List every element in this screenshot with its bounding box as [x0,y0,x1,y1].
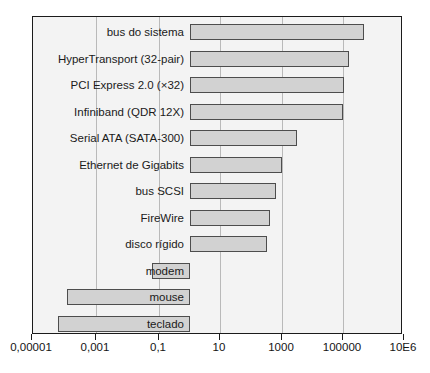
axis-tick-label: 100000 [323,341,361,353]
category-label: bus SCSI [33,183,188,199]
axis-tick-label: 0,1 [150,341,166,353]
category-label: HyperTransport (32-pair) [33,51,188,67]
category-label: Serial ATA (SATA-300) [33,130,188,146]
axis-tick [219,334,220,340]
bar-row: bus SCSI [33,183,401,199]
bar [190,157,282,173]
axis-tick-label: 10 [213,341,226,353]
bar [190,77,344,93]
bar-row: Ethernet de Gigabits [33,157,401,173]
axis-tick [342,334,343,340]
axis-tick [95,334,96,340]
bar [190,183,276,199]
bar [190,210,270,226]
category-label: Ethernet de Gigabits [33,157,188,173]
bar-row: mouse [33,289,401,305]
category-label: modem [33,263,188,279]
bar [190,104,343,120]
bar-row: bus do sistema [33,24,401,40]
category-label: bus do sistema [33,24,188,40]
bar [190,236,267,252]
bar-row: Serial ATA (SATA-300) [33,130,401,146]
bar [190,24,364,40]
bar [190,51,349,67]
category-label: mouse [33,289,188,305]
axis-tick [158,334,159,340]
bar-row: HyperTransport (32-pair) [33,51,401,67]
category-label: PCI Express 2.0 (×32) [33,77,188,93]
bar-row: FireWire [33,210,401,226]
axis-tick-label: 1000 [268,341,294,353]
category-label: disco rígido [33,236,188,252]
axis-tick-label: 0,001 [81,341,110,353]
plot-area: bus do sistemaHyperTransport (32-pair)PC… [33,17,401,333]
category-label: teclado [33,316,188,332]
bar-row: teclado [33,316,401,332]
bar-chart: bus do sistemaHyperTransport (32-pair)PC… [0,0,430,373]
bar-row: modem [33,263,401,279]
bar [190,130,297,146]
axis-tick [281,334,282,340]
axis-tick-label: 10E6 [390,341,417,353]
bar-row: PCI Express 2.0 (×32) [33,77,401,93]
plot-frame: bus do sistemaHyperTransport (32-pair)PC… [32,16,402,334]
axis-tick [31,334,32,340]
category-label: Infiniband (QDR 12X) [33,104,188,120]
axis-tick-label: 0,00001 [10,341,52,353]
category-label: FireWire [33,210,188,226]
bar-row: Infiniband (QDR 12X) [33,104,401,120]
axis-tick [403,334,404,340]
bar-row: disco rígido [33,236,401,252]
